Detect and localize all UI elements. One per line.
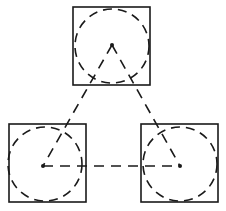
bottom-right-square (141, 124, 218, 202)
bottom-left-center-dot (41, 164, 45, 168)
bottom-left-square (9, 124, 86, 202)
bottom-right-center-dot (178, 164, 182, 168)
top-center-dot (110, 43, 114, 47)
edge-top-to-bottom-right (112, 45, 180, 166)
triangle-circles-diagram (0, 0, 226, 211)
